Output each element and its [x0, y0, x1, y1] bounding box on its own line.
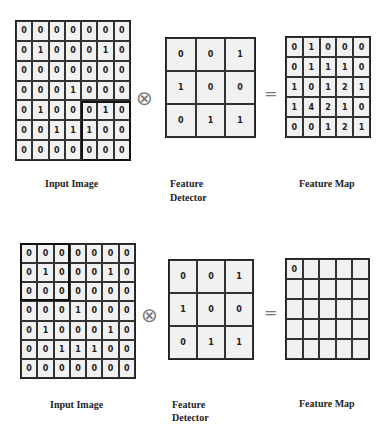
grid-cell: 0 [353, 37, 370, 57]
grid-cell [352, 319, 369, 339]
grid-cell: 0 [102, 244, 118, 263]
grid-cell: 0 [225, 293, 253, 326]
grid-cell: 0 [114, 140, 130, 160]
equals-sign: = [264, 84, 277, 103]
grid-cell: 0 [114, 41, 130, 61]
grid-cell: 0 [21, 321, 37, 340]
grid-cell: 0 [336, 37, 353, 57]
grid-cell: 1 [286, 97, 303, 117]
grid-cell: 0 [102, 359, 118, 378]
grid-cell: 0 [119, 340, 135, 359]
grid-cell: 0 [54, 321, 70, 340]
grid-cell: 0 [169, 326, 197, 359]
grid-cell: 1 [65, 120, 81, 140]
grid-cell: 0 [21, 359, 37, 378]
grid-cell: 0 [86, 244, 102, 263]
grid-cell: 0 [54, 301, 70, 320]
grid-cell: 0 [225, 71, 255, 104]
top-input-image-grid: 0000000010001000000000001000010001000111… [15, 20, 131, 161]
grid-cell: 0 [97, 21, 113, 41]
grid-cell: 0 [197, 260, 225, 293]
grid-cell: 0 [21, 282, 37, 301]
grid-cell: 0 [114, 61, 130, 81]
top-feature-detector-grid: 001100011 [165, 37, 256, 138]
grid-cell: 0 [21, 263, 37, 282]
grid-cell: 0 [114, 100, 130, 120]
grid-cell: 0 [320, 37, 337, 57]
grid-cell: 0 [16, 100, 32, 120]
grid-cell: 1 [37, 263, 53, 282]
top-feature-map-label: Feature Map [299, 177, 355, 191]
grid-cell: 1 [102, 263, 118, 282]
grid-cell: 0 [303, 117, 320, 137]
grid-cell: 0 [21, 244, 37, 263]
grid-cell: 0 [86, 263, 102, 282]
top-feature-detector-label-line1: Feature [170, 177, 203, 191]
grid-cell: 1 [97, 100, 113, 120]
grid-cell [303, 339, 320, 359]
grid-cell: 0 [49, 100, 65, 120]
grid-cell [319, 259, 336, 279]
convolution-operator-icon: ⊗ [141, 303, 158, 327]
grid-cell: 0 [37, 244, 53, 263]
grid-cell [336, 279, 353, 299]
grid-cell: 0 [286, 37, 303, 57]
grid-cell [286, 299, 303, 319]
grid-cell: 0 [70, 244, 86, 263]
convolution-operator-icon: ⊗ [136, 86, 153, 110]
grid-cell [303, 319, 320, 339]
grid-cell: 0 [114, 81, 130, 101]
grid-cell: 0 [16, 81, 32, 101]
grid-cell: 1 [225, 38, 255, 71]
grid-cell: 0 [86, 301, 102, 320]
grid-cell: 0 [286, 259, 303, 279]
grid-cell: 1 [32, 41, 48, 61]
grid-cell: 0 [65, 21, 81, 41]
grid-cell: 0 [303, 77, 320, 97]
grid-cell: 1 [37, 321, 53, 340]
grid-cell: 0 [102, 282, 118, 301]
bottom-feature-detector-grid: 001100011 [168, 259, 254, 360]
grid-cell [336, 299, 353, 319]
grid-cell: 0 [353, 97, 370, 117]
grid-cell: 0 [97, 140, 113, 160]
grid-cell: 0 [16, 21, 32, 41]
grid-cell: 4 [303, 97, 320, 117]
grid-cell: 0 [70, 359, 86, 378]
grid-cell: 0 [54, 359, 70, 378]
grid-cell: 0 [70, 321, 86, 340]
grid-cell: 0 [49, 61, 65, 81]
grid-cell: 1 [81, 120, 97, 140]
grid-cell: 0 [65, 41, 81, 61]
grid-cell: 0 [81, 61, 97, 81]
grid-cell: 0 [97, 81, 113, 101]
grid-cell: 0 [119, 301, 135, 320]
grid-cell: 2 [336, 77, 353, 97]
grid-cell [352, 259, 369, 279]
grid-cell: 0 [32, 140, 48, 160]
grid-cell: 0 [197, 293, 225, 326]
grid-cell: 1 [320, 77, 337, 97]
grid-cell: 0 [119, 263, 135, 282]
top-feature-map-grid: 0100001110101211421000121 [285, 36, 371, 138]
grid-cell: 1 [197, 326, 225, 359]
grid-cell: 0 [102, 340, 118, 359]
grid-cell [286, 279, 303, 299]
grid-cell: 0 [114, 120, 130, 140]
grid-cell: 1 [225, 260, 253, 293]
top-feature-detector-label-line2: Detector [170, 191, 207, 205]
grid-cell: 0 [86, 359, 102, 378]
grid-cell [319, 339, 336, 359]
grid-cell: 1 [225, 326, 253, 359]
grid-cell: 0 [32, 21, 48, 41]
grid-cell: 0 [49, 140, 65, 160]
grid-cell: 0 [114, 21, 130, 41]
grid-cell [352, 299, 369, 319]
grid-cell [352, 279, 369, 299]
grid-cell: 0 [86, 321, 102, 340]
grid-cell: 0 [81, 21, 97, 41]
grid-cell [319, 319, 336, 339]
grid-cell [336, 259, 353, 279]
bottom-feature-detector-label-line1: Feature [172, 398, 205, 412]
grid-cell: 0 [32, 81, 48, 101]
